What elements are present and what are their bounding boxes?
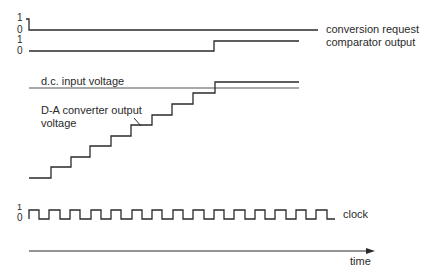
clock-low-label: 0	[17, 213, 23, 223]
conversion-request-waveform	[26, 19, 318, 30]
dc-input-voltage-label: d.c. input voltage	[41, 76, 124, 87]
comparator-output-label: comparator output	[326, 37, 415, 48]
time-axis-arrow-icon	[366, 248, 375, 254]
conversion-request-label: conversion request	[326, 24, 419, 35]
time-axis-label: time	[350, 256, 371, 267]
da-converter-label-line1: D-A converter output	[41, 105, 142, 116]
comparator-output-low-label: 0	[17, 46, 23, 56]
clock-high-label: 1	[17, 203, 22, 212]
comparator-output-high-label: 1	[17, 35, 23, 45]
da-converter-staircase	[29, 82, 299, 178]
da-converter-label-line2: voltage	[41, 118, 76, 129]
clock-label: clock	[343, 209, 368, 220]
conversion-request-high-label: 1	[17, 13, 23, 23]
comparator-output-waveform	[29, 41, 299, 51]
clock-waveform	[29, 210, 335, 219]
